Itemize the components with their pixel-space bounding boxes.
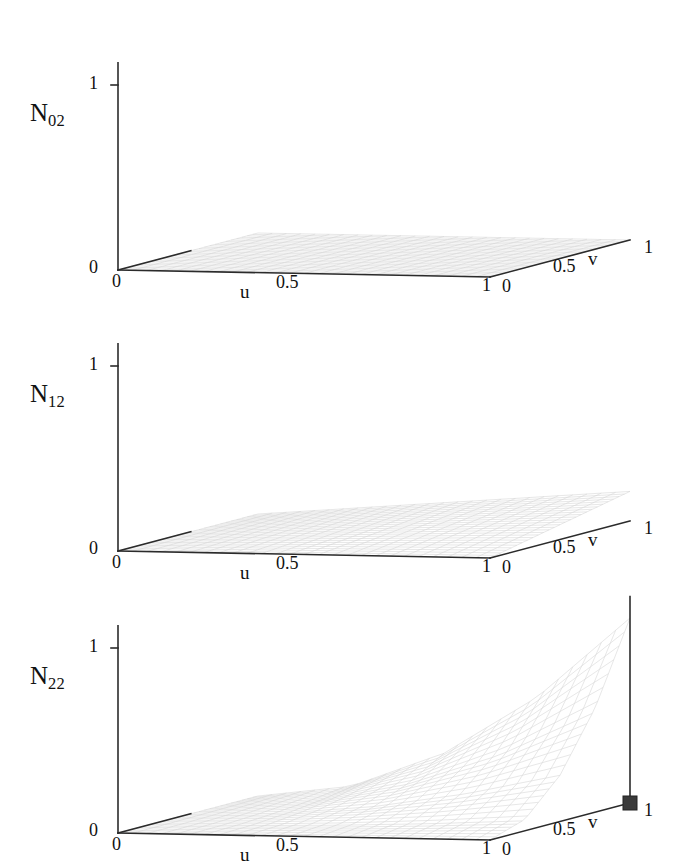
v-tick-label-05: 0.5 (553, 538, 576, 556)
u-tick-label-05: 0.5 (276, 836, 299, 854)
surface-panel: N021000.51u00.51v (0, 0, 693, 281)
surface-plot-canvas (0, 0, 693, 281)
v-tick-label-1: 1 (644, 519, 653, 537)
surface-panel: N221000.51u00.51v (0, 563, 693, 844)
z-tick-label-1: 1 (89, 637, 98, 655)
u-axis-label: u (240, 845, 250, 864)
v-axis-label: v (588, 530, 598, 549)
u-tick-label-1: 1 (482, 839, 491, 857)
v-axis-label: v (588, 249, 598, 268)
z-tick-label-0: 0 (89, 539, 98, 557)
u-axis-line (118, 270, 490, 277)
u-tick-label-0: 0 (112, 835, 121, 853)
surface-panel: N121000.51u00.51v (0, 281, 693, 562)
v-tick-label-1: 1 (644, 801, 653, 819)
z-tick-label-1: 1 (89, 355, 98, 373)
series-label: N02 (30, 100, 65, 129)
series-label: N12 (30, 381, 65, 410)
v-tick-label-05: 0.5 (553, 257, 576, 275)
peak-marker-group (623, 596, 637, 810)
peak-marker-square (623, 796, 637, 810)
v-tick-label-05: 0.5 (553, 820, 576, 838)
z-tick-label-0: 0 (89, 821, 98, 839)
v-tick-label-1: 1 (644, 238, 653, 256)
u-axis-line (118, 833, 490, 840)
z-tick-label-0: 0 (89, 258, 98, 276)
surface-mesh (118, 618, 630, 840)
v-tick-label-0: 0 (502, 840, 511, 858)
axes-group (111, 626, 630, 840)
surface-plot-canvas (0, 281, 693, 562)
z-tick-label-1: 1 (89, 74, 98, 92)
surface-plot-canvas (0, 563, 693, 844)
v-axis-label: v (588, 812, 598, 831)
axes-group (111, 63, 630, 277)
axes-group (111, 344, 630, 558)
v-origin-edge (118, 532, 191, 551)
series-label: N22 (30, 663, 65, 692)
